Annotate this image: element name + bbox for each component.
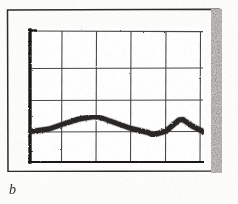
plot-background [27,28,204,168]
figure-caption: b [9,183,16,197]
gridline-x-4 [166,31,167,163]
gridline-x-3 [131,31,132,163]
gridline-x-2 [96,31,97,163]
shadow-band-texture [211,9,222,173]
x-axis [29,162,203,163]
gridline-x-1 [62,31,63,163]
figure-panel: b [0,0,238,204]
gridline-y-top [29,31,203,32]
plot-area [27,28,204,168]
right-shadow-band [211,9,222,173]
gridline-y-1 [29,68,203,69]
gridline-y-2 [29,100,203,101]
line-chart [27,28,204,168]
gridline-x-5 [200,31,201,163]
gridline-y-3 [29,132,203,133]
x-axis-line [29,162,203,163]
